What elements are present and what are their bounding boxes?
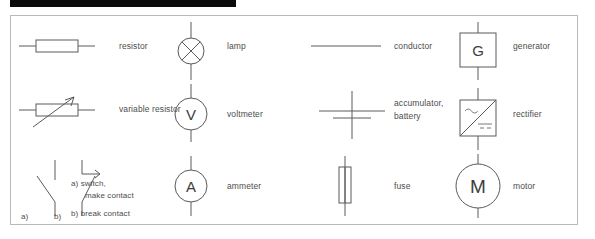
motor-label: motor [513,181,535,192]
motor-symbol: M [446,154,510,218]
switch-label-line-1: a) switch, [71,178,106,189]
accumulator-battery-label-line-1: accumulator, [394,98,443,109]
switch-label-line-3: b) break contact [71,208,130,219]
generator-symbol: G [454,22,502,80]
rectifier-symbol [454,88,502,150]
fuse-label: fuse [394,181,410,192]
generator-glyph: G [472,42,484,59]
resistor-label: resistor [119,41,148,52]
lamp-label: lamp [227,41,246,52]
resistor-symbol [19,36,95,56]
motor-glyph: M [470,176,486,197]
symbols-legend-frame: resistor variable resistor a) b) [10,15,578,225]
switch-tag-b: b) [54,212,61,221]
lamp-symbol [171,22,211,80]
ammeter-glyph: A [186,178,196,195]
accumulator-battery-label-line-2: battery [394,111,421,122]
fuse-symbol [333,156,357,216]
top-black-bar [10,0,236,7]
voltmeter-label: voltmeter [227,109,263,120]
ammeter-label: ammeter [227,181,261,192]
voltmeter-symbol: V [171,84,211,142]
variable-resistor-symbol [19,94,95,130]
conductor-symbol [311,41,381,51]
ammeter-symbol: A [171,156,211,216]
voltmeter-glyph: V [186,106,196,123]
switch-label-line-2: make contact [85,190,134,201]
generator-label: generator [513,41,550,52]
switch-tag-a: a) [21,212,28,221]
accumulator-battery-symbol [319,91,385,139]
rectifier-label: rectifier [513,109,542,120]
conductor-label: conductor [394,41,432,52]
